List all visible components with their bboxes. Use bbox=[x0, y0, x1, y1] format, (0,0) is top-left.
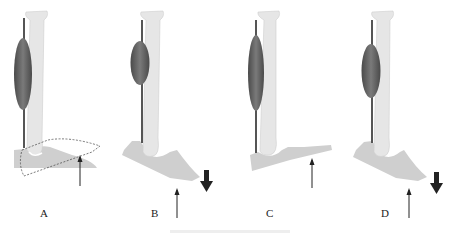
tibia-bone bbox=[141, 11, 164, 157]
calf-muscle bbox=[131, 41, 150, 85]
calf-muscle bbox=[248, 35, 264, 111]
panel-label-d: D bbox=[381, 207, 389, 219]
force-arrow-head bbox=[200, 181, 213, 192]
panel-label-b: B bbox=[151, 207, 158, 219]
foot bbox=[122, 141, 200, 181]
panel-a bbox=[14, 11, 100, 186]
force-arrow-head bbox=[430, 183, 443, 194]
panel-d bbox=[353, 11, 443, 218]
foot bbox=[353, 141, 427, 181]
biomechanics-diagram bbox=[0, 0, 455, 234]
calf-muscle bbox=[362, 44, 381, 98]
panel-b bbox=[122, 11, 213, 218]
foot bbox=[14, 146, 97, 168]
force-arrow-shaft bbox=[434, 172, 439, 184]
panel-label-a: A bbox=[40, 207, 48, 219]
caption-fragment bbox=[170, 230, 290, 233]
panel-label-c: C bbox=[266, 207, 273, 219]
panel-c bbox=[248, 11, 332, 188]
force-arrow-shaft bbox=[204, 170, 209, 182]
calf-muscle bbox=[14, 38, 32, 110]
